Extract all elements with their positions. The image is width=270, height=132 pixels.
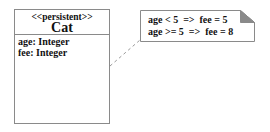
uml-diagram-canvas: <<persistent>> Cat age: Integer fee: Int… [0, 0, 270, 132]
note-fold-icon [241, 11, 255, 23]
class-attributes: age: Integer fee: Integer [15, 35, 109, 58]
note-rule-2: age >= 5 => fee = 8 [148, 26, 233, 38]
note-rule-1: age < 5 => fee = 5 [148, 14, 233, 26]
note-text: age < 5 => fee = 5 age >= 5 => fee = 8 [148, 14, 233, 37]
attribute-fee: fee: Integer [18, 48, 109, 59]
note-box[interactable]: age < 5 => fee = 5 age >= 5 => fee = 8 [140, 10, 255, 42]
class-name: Cat [15, 22, 109, 34]
class-header: <<persistent>> Cat [15, 10, 109, 35]
class-box-cat[interactable]: <<persistent>> Cat age: Integer fee: Int… [14, 9, 110, 124]
attribute-age: age: Integer [18, 37, 109, 48]
